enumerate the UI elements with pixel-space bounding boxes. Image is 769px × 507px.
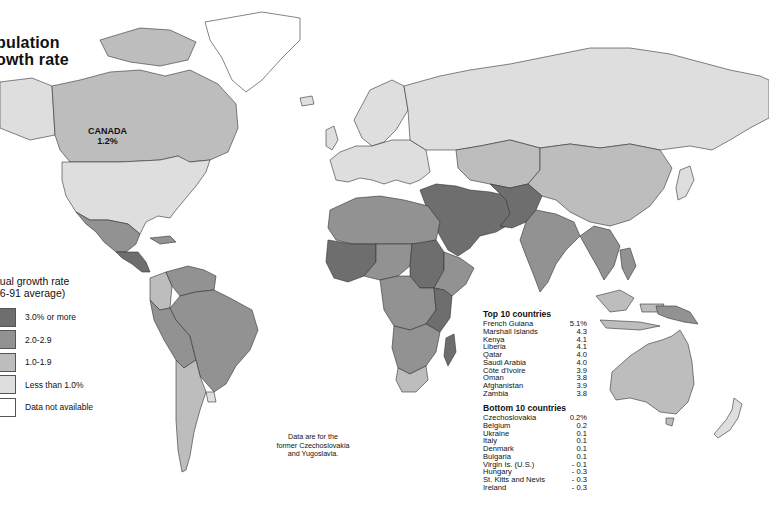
region-scandinavia xyxy=(354,80,408,146)
legend-swatch xyxy=(0,330,16,349)
region-canada-islands xyxy=(100,28,196,66)
legend-item: Less than 1.0% xyxy=(0,374,93,397)
region-southeast-asia xyxy=(580,226,620,280)
bottom-10-heading: Bottom 10 countries xyxy=(483,403,587,413)
legend-swatch xyxy=(0,308,16,327)
map-title-line2: owth rate xyxy=(0,51,69,68)
region-canada xyxy=(52,70,238,162)
growth-value: - 0.3 xyxy=(565,484,587,492)
region-new-zealand xyxy=(714,398,742,438)
region-papua-new-guinea xyxy=(656,306,698,324)
region-tasmania xyxy=(666,418,674,426)
region-central-america xyxy=(116,252,150,272)
table-row: Ireland- 0.3 xyxy=(483,484,587,492)
country-name: Ireland xyxy=(483,484,565,492)
region-australia xyxy=(610,330,694,414)
legend-label: Data not available xyxy=(25,402,93,412)
region-europe xyxy=(330,140,430,184)
world-map xyxy=(0,0,769,507)
canada-callout: CANADA 1.2% xyxy=(88,126,127,146)
region-caribbean xyxy=(150,236,176,244)
region-russia xyxy=(404,48,769,150)
region-north-africa xyxy=(328,196,440,244)
legend-label: Less than 1.0% xyxy=(25,380,84,390)
region-iceland xyxy=(300,96,314,106)
legend-label: 2.0-2.9 xyxy=(25,335,51,345)
footnote: Data are for the former Czechoslovakia a… xyxy=(268,433,358,459)
legend-label: 1.0-1.9 xyxy=(25,357,51,367)
legend-item: 1.0-1.9 xyxy=(0,351,93,374)
region-india xyxy=(520,210,580,292)
legend-item: Data not available xyxy=(0,396,93,419)
table-row: Ukraine0.1 xyxy=(483,430,587,438)
top-10-heading: Top 10 countries xyxy=(483,309,587,319)
legend-title-line2: 86-91 average) xyxy=(0,287,93,299)
bottom-10-table: Bottom 10 countries Czechoslovakia0.2% B… xyxy=(483,403,587,492)
table-row: Zambia3.8 xyxy=(483,390,587,398)
region-madagascar xyxy=(444,334,456,366)
region-philippines xyxy=(620,248,636,280)
legend-item: 3.0% or more xyxy=(0,306,93,329)
legend-item: 2.0-2.9 xyxy=(0,329,93,352)
map-title-line1: pulation xyxy=(0,34,69,51)
region-alaska xyxy=(0,78,55,140)
region-japan xyxy=(676,166,694,200)
region-uk xyxy=(326,126,338,150)
legend-title-line1: nual growth rate xyxy=(0,275,93,287)
country-name: Zambia xyxy=(483,390,565,398)
legend-swatch xyxy=(0,353,16,372)
map-title: pulation owth rate xyxy=(0,34,69,68)
legend-title: nual growth rate 86-91 average) xyxy=(0,275,93,299)
canada-callout-name: CANADA xyxy=(88,126,127,136)
legend-swatch xyxy=(0,398,16,417)
region-uruguay xyxy=(206,392,216,402)
footnote-line3: and Yugoslavia. xyxy=(268,450,358,459)
legend: nual growth rate 86-91 average) 3.0% or … xyxy=(0,275,93,419)
top-10-table: Top 10 countries French Guiana5.1% Marsh… xyxy=(483,309,587,398)
region-indonesia xyxy=(596,290,664,330)
legend-swatch xyxy=(0,375,16,394)
region-greenland xyxy=(205,12,300,92)
region-southern-africa xyxy=(392,324,440,374)
legend-label: 3.0% or more xyxy=(25,312,76,322)
growth-value: 3.8 xyxy=(565,390,587,398)
canada-callout-value: 1.2% xyxy=(88,136,127,146)
